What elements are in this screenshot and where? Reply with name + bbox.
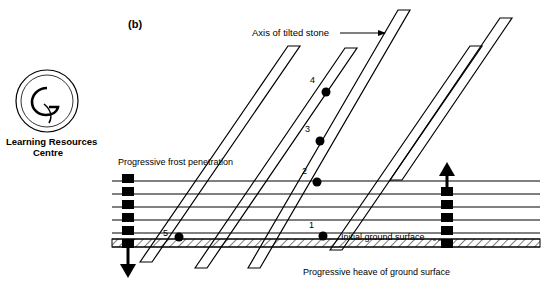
frost-penetration-blocks	[122, 174, 134, 248]
stone-dot-5	[175, 233, 184, 242]
stone-dot-1	[319, 232, 328, 241]
figure-canvas: (b) Axis of tilted stone Progressive fro…	[0, 0, 556, 296]
tilted-stone-4	[330, 46, 482, 250]
frost-penetration-arrow	[120, 248, 136, 278]
university-logo-emblem	[16, 70, 78, 132]
panel-label: (b)	[128, 18, 142, 30]
logo-caption-line1: Learning Resources	[6, 136, 90, 147]
stone-dot-3	[316, 137, 325, 146]
tilted-stones	[140, 10, 512, 268]
stone-number-1: 1	[309, 220, 314, 230]
progressive-heave-label: Progressive heave of ground surface	[303, 267, 450, 277]
initial-ground-surface-label: Initial ground surface	[341, 232, 425, 242]
progressive-frost-penetration-label: Progressive frost penetration	[118, 157, 233, 167]
tilted-stone-3	[248, 10, 410, 268]
stone-number-5: 5	[163, 228, 168, 238]
stone-dot-4	[322, 88, 331, 97]
tilted-stone-5	[390, 18, 512, 180]
stone-dot-2	[313, 178, 322, 187]
stone-number-2: 2	[302, 166, 307, 176]
logo-caption-line2: Centre	[6, 147, 90, 158]
stone-number-3: 3	[305, 124, 310, 134]
ground-surface-lines	[112, 181, 540, 233]
heave-arrow	[439, 162, 455, 188]
stone-number-4: 4	[310, 75, 315, 85]
axis-of-tilted-stone-label: Axis of tilted stone	[252, 27, 329, 38]
